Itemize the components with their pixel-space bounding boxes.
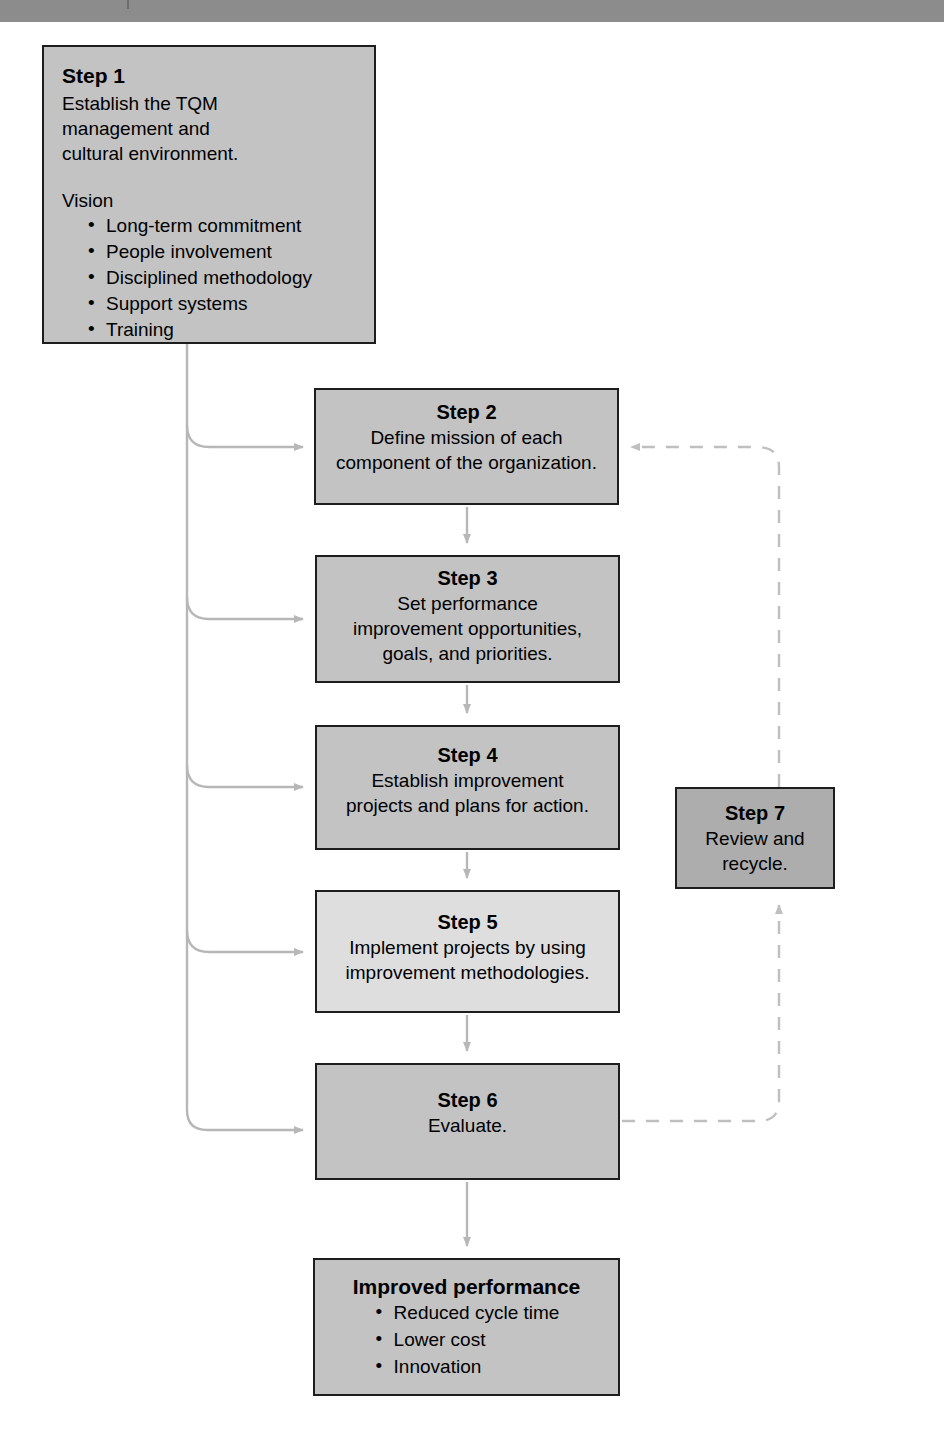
step-2-title: Step 2 bbox=[316, 400, 617, 425]
step-3-body-line-3: goals, and priorities. bbox=[317, 641, 618, 666]
step-7-title: Step 7 bbox=[677, 801, 833, 826]
step-1-body-line-3: cultural environment. bbox=[62, 141, 374, 166]
list-item: Support systems bbox=[88, 291, 374, 317]
node-step-2[interactable]: Step 2 Define mission of each component … bbox=[314, 388, 619, 505]
step-1-body-line-2: management and bbox=[62, 116, 374, 141]
step-4-body-line-1: Establish improvement bbox=[317, 768, 618, 793]
wire-step1-trunk bbox=[187, 344, 303, 1130]
list-item: Disciplined methodology bbox=[88, 265, 374, 291]
step-2-body-line-2: component of the organization. bbox=[316, 450, 617, 475]
list-item: Innovation bbox=[374, 1353, 560, 1380]
header-tick-mark bbox=[127, 0, 129, 9]
list-item: Training bbox=[88, 317, 374, 343]
flowchart-canvas: Step 1 Establish the TQM management and … bbox=[0, 0, 944, 1445]
node-step-6[interactable]: Step 6 Evaluate. bbox=[315, 1063, 620, 1180]
node-step-3[interactable]: Step 3 Set performance improvement oppor… bbox=[315, 555, 620, 683]
step-1-bullet-list: Long-term commitment People involvement … bbox=[62, 213, 374, 343]
wire-step7-to-step2 bbox=[631, 447, 779, 787]
step-3-body-line-1: Set performance bbox=[317, 591, 618, 616]
step-4-body-line-2: projects and plans for action. bbox=[317, 793, 618, 818]
node-step-4[interactable]: Step 4 Establish improvement projects an… bbox=[315, 725, 620, 850]
step-6-title: Step 6 bbox=[317, 1088, 618, 1113]
step-1-subhead: Vision bbox=[62, 188, 374, 213]
outcome-bullet-list: Reduced cycle time Lower cost Innovation bbox=[374, 1299, 560, 1380]
step-3-body-line-2: improvement opportunities, bbox=[317, 616, 618, 641]
node-step-1[interactable]: Step 1 Establish the TQM management and … bbox=[42, 45, 376, 344]
list-item: Long-term commitment bbox=[88, 213, 374, 239]
node-improved-performance[interactable]: Improved performance Reduced cycle time … bbox=[313, 1258, 620, 1396]
outcome-title: Improved performance bbox=[315, 1274, 618, 1299]
page-header-band bbox=[0, 0, 944, 22]
list-item: Lower cost bbox=[374, 1326, 560, 1353]
step-1-body-line-1: Establish the TQM bbox=[62, 91, 374, 116]
wire-step1-to-step2 bbox=[187, 425, 303, 447]
step-3-title: Step 3 bbox=[317, 566, 618, 591]
wire-step1-to-step4 bbox=[187, 765, 303, 787]
list-item: Reduced cycle time bbox=[374, 1299, 560, 1326]
wire-step1-to-step5 bbox=[187, 930, 303, 952]
wire-step1-to-step3 bbox=[187, 597, 303, 619]
node-step-5[interactable]: Step 5 Implement projects by using impro… bbox=[315, 890, 620, 1013]
step-4-title: Step 4 bbox=[317, 743, 618, 768]
step-5-body-line-1: Implement projects by using bbox=[317, 935, 618, 960]
step-7-body-line-2: recycle. bbox=[677, 851, 833, 876]
step-7-body-line-1: Review and bbox=[677, 826, 833, 851]
step-1-title: Step 1 bbox=[62, 63, 374, 88]
step-5-body-line-2: improvement methodologies. bbox=[317, 960, 618, 985]
step-5-title: Step 5 bbox=[317, 910, 618, 935]
step-2-body-line-1: Define mission of each bbox=[316, 425, 617, 450]
node-step-7[interactable]: Step 7 Review and recycle. bbox=[675, 787, 835, 889]
step-6-body-line-1: Evaluate. bbox=[317, 1113, 618, 1138]
list-item: People involvement bbox=[88, 239, 374, 265]
wire-step6-to-step7 bbox=[622, 905, 779, 1121]
